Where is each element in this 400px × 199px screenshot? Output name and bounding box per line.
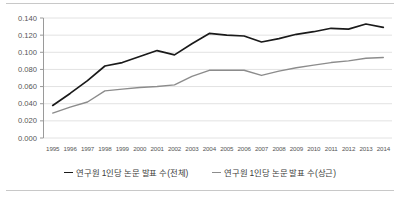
series-line bbox=[53, 57, 384, 113]
legend-entry[interactable]: 연구원 1인당 논문 발표 수(전체) bbox=[64, 166, 188, 178]
x-axis-tick-label: 1996 bbox=[61, 145, 78, 152]
y-axis-tick-label: 0.060 bbox=[18, 82, 37, 91]
x-axis-tick-label: 2014 bbox=[375, 145, 392, 152]
legend-label: 연구원 1인당 논문 발표 수(상근) bbox=[224, 166, 336, 178]
line-chart-svg: 0.1400.1200.1000.0800.0600.0400.0200.000 bbox=[0, 12, 400, 144]
x-axis-labels: 1995199619971998199920002001200220032004… bbox=[44, 145, 392, 157]
y-axis-labels-group: 0.1400.1200.1000.0800.0600.0400.0200.000 bbox=[18, 14, 37, 143]
x-axis-tick-label: 2008 bbox=[270, 145, 287, 152]
chart-legend: 연구원 1인당 논문 발표 수(전체)연구원 1인당 논문 발표 수(상근) bbox=[0, 166, 400, 178]
x-axis-tick-label: 2003 bbox=[183, 145, 200, 152]
x-axis-tick-label: 1998 bbox=[96, 145, 113, 152]
plot-area: 0.1400.1200.1000.0800.0600.0400.0200.000 bbox=[0, 12, 400, 144]
x-axis-tick-label: 2005 bbox=[218, 145, 235, 152]
bottom-divider-rule bbox=[6, 190, 394, 191]
y-axis-ticks-group bbox=[40, 18, 44, 138]
legend-line-icon bbox=[64, 172, 73, 173]
chart-figure: 0.1400.1200.1000.0800.0600.0400.0200.000… bbox=[0, 0, 400, 199]
legend-line-icon bbox=[212, 172, 221, 173]
x-axis-tick-label: 2009 bbox=[288, 145, 305, 152]
x-axis-tick-label: 2012 bbox=[340, 145, 357, 152]
y-axis-tick-label: 0.040 bbox=[18, 99, 37, 108]
x-axis-tick-label: 1999 bbox=[114, 145, 131, 152]
y-axis-tick-label: 0.100 bbox=[18, 48, 37, 57]
top-divider-rule bbox=[6, 3, 394, 4]
legend-entry[interactable]: 연구원 1인당 논문 발표 수(상근) bbox=[212, 166, 336, 178]
x-axis-tick-label: 2011 bbox=[323, 145, 340, 152]
y-axis-tick-label: 0.020 bbox=[18, 116, 37, 125]
x-axis-tick-label: 1997 bbox=[79, 145, 96, 152]
gridlines-group bbox=[44, 18, 392, 138]
x-axis-tick-label: 2013 bbox=[357, 145, 374, 152]
y-axis-tick-label: 0.140 bbox=[18, 14, 37, 23]
x-axis-tick-label: 2007 bbox=[253, 145, 270, 152]
data-series-group bbox=[53, 24, 384, 113]
x-axis-tick-label: 2010 bbox=[305, 145, 322, 152]
x-axis-tick-label: 2000 bbox=[131, 145, 148, 152]
x-axis-tick-label: 2006 bbox=[235, 145, 252, 152]
y-axis-tick-label: 0.000 bbox=[18, 134, 37, 143]
x-axis-tick-label: 2002 bbox=[166, 145, 183, 152]
y-axis-tick-label: 0.080 bbox=[18, 65, 37, 74]
x-axis-tick-label: 2001 bbox=[148, 145, 165, 152]
x-axis-tick-label: 2004 bbox=[201, 145, 218, 152]
legend-label: 연구원 1인당 논문 발표 수(전체) bbox=[76, 166, 188, 178]
x-axis-tick-label: 1995 bbox=[44, 145, 61, 152]
y-axis-tick-label: 0.120 bbox=[18, 31, 37, 40]
